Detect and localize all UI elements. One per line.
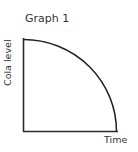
cola-level-curve	[24, 40, 117, 132]
chart-plot-area	[0, 0, 138, 152]
